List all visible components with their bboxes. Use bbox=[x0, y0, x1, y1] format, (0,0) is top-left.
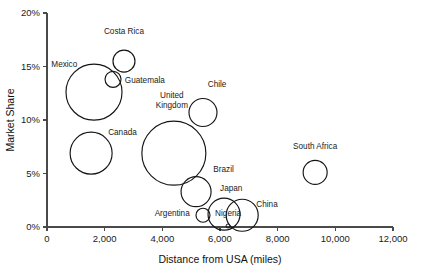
y-axis-ticks: 0%5%10%15%20% bbox=[21, 7, 47, 232]
y-tick-label: 15% bbox=[21, 61, 41, 72]
bubble-label-brazil: Brazil bbox=[213, 165, 234, 174]
bubble-label-line: Chile bbox=[208, 80, 227, 89]
x-tick-label: 2,000 bbox=[93, 233, 117, 244]
bubble-label-line: Mexico bbox=[51, 60, 77, 69]
y-tick-label: 20% bbox=[21, 7, 41, 18]
bubble-brazil bbox=[181, 177, 211, 207]
bubble-label-united-kingdom: UnitedKingdom bbox=[156, 91, 188, 110]
bubble-label-guatemala: Guatemala bbox=[125, 76, 165, 85]
bubble-label-line: Nigeria bbox=[215, 209, 241, 218]
bubble-label-line: Brazil bbox=[213, 165, 234, 174]
bubble-label-south-africa: South Africa bbox=[293, 142, 338, 151]
bubble-label-nigeria: Nigeria bbox=[215, 209, 241, 218]
x-tick-label: 6,000 bbox=[208, 233, 232, 244]
y-tick-label: 10% bbox=[21, 114, 41, 125]
y-axis-title: Market Share bbox=[4, 88, 16, 151]
bubble-label-mexico: Mexico bbox=[51, 60, 77, 69]
bubble-costa-rica bbox=[113, 50, 135, 72]
bubble-label-line: Argentina bbox=[155, 209, 190, 218]
bubble-label-line: South Africa bbox=[293, 142, 338, 151]
bubble-label-canada: Canada bbox=[108, 128, 137, 137]
bubble-label-line: Canada bbox=[108, 128, 137, 137]
bubble-label-china: China bbox=[256, 200, 278, 209]
x-tick-label: 0 bbox=[44, 233, 49, 244]
bubble-chart-figure: 0%5%10%15%20% 02,0004,0006,0008,00010,00… bbox=[0, 0, 426, 277]
bubble-label-line: China bbox=[256, 200, 278, 209]
bubble-labels: MexicoCosta RicaGuatemalaCanadaUnitedKin… bbox=[51, 27, 337, 218]
bubble-united-kingdom bbox=[142, 121, 206, 185]
bubble-south-africa bbox=[303, 160, 327, 184]
bubble-label-chile: Chile bbox=[208, 80, 227, 89]
bubble-label-argentina: Argentina bbox=[155, 209, 190, 218]
y-tick-label: 0% bbox=[26, 221, 40, 232]
bubble-label-line: Kingdom bbox=[156, 101, 188, 110]
y-tick-label: 5% bbox=[26, 168, 40, 179]
bubble-series bbox=[66, 50, 327, 231]
bubble-mexico bbox=[66, 64, 122, 120]
bubble-label-line: Japan bbox=[220, 184, 243, 193]
bubble-chile bbox=[189, 99, 217, 127]
x-tick-label: 10,000 bbox=[321, 233, 350, 244]
bubble-label-line: United bbox=[160, 91, 184, 100]
x-tick-label: 12,000 bbox=[378, 233, 407, 244]
x-axis-title: Distance from USA (miles) bbox=[158, 253, 281, 265]
bubble-label-line: Costa Rica bbox=[104, 27, 144, 36]
bubble-label-line: Guatemala bbox=[125, 76, 165, 85]
x-tick-label: 4,000 bbox=[150, 233, 174, 244]
x-tick-label: 8,000 bbox=[266, 233, 290, 244]
chart-canvas: 0%5%10%15%20% 02,0004,0006,0008,00010,00… bbox=[0, 0, 426, 277]
bubble-label-costa-rica: Costa Rica bbox=[104, 27, 144, 36]
bubble-canada bbox=[70, 132, 112, 174]
bubble-label-japan: Japan bbox=[220, 184, 243, 193]
